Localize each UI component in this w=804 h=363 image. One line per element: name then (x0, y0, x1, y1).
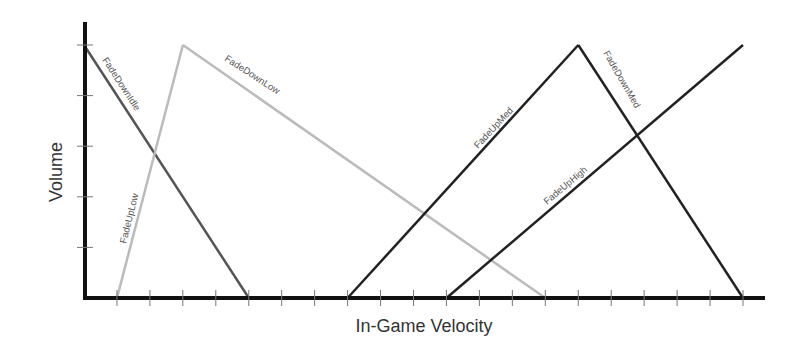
series-fade-down-med (578, 45, 743, 298)
label-fade-down-med: FadeDownMed (601, 49, 643, 110)
label-fade-down-low: FadeDownLow (223, 52, 282, 96)
label-fade-up-high: FadeUpHigh (541, 164, 589, 207)
series-fade-up-high (447, 45, 744, 298)
y-axis-title: Volume (46, 142, 66, 202)
series-layer (84, 45, 743, 298)
x-axis (83, 290, 765, 306)
label-fade-up-med: FadeUpMed (471, 105, 515, 151)
series-fade-up-med (348, 45, 579, 298)
velocity-volume-chart: In-Game Velocity Volume FadeDownIdle Fad… (0, 0, 804, 363)
y-axis (77, 22, 93, 299)
x-axis-title: In-Game Velocity (355, 316, 492, 336)
series-fade-down-idle (84, 45, 249, 298)
